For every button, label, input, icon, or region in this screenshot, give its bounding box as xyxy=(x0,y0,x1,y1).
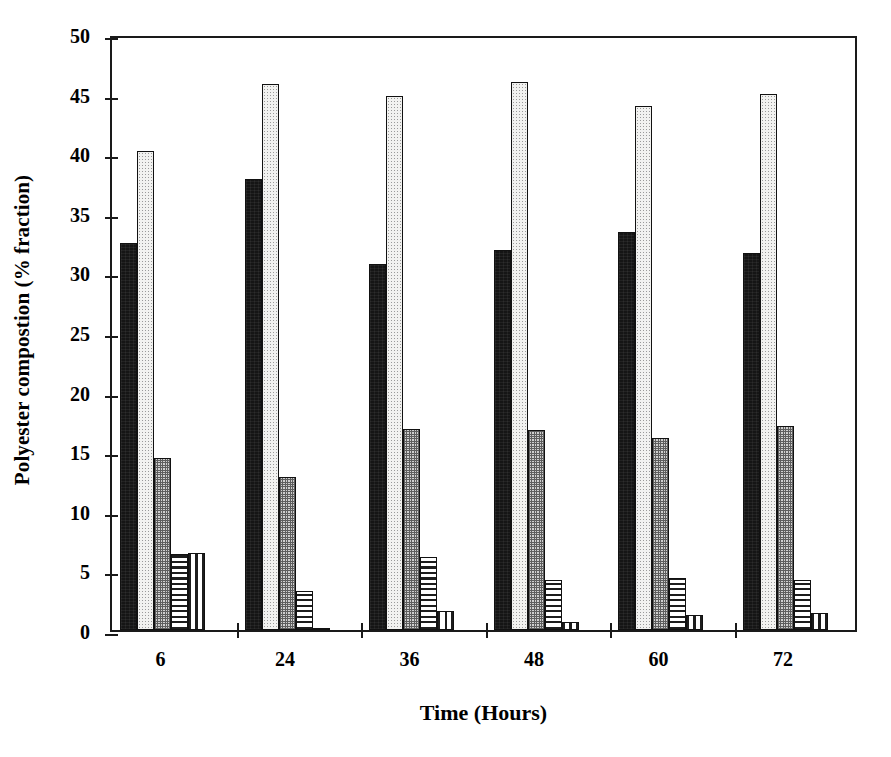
y-axis-title: Polyester compostion (% fraction) xyxy=(10,175,35,485)
bar-series-2-24 xyxy=(262,84,279,630)
y-axis-tick-labels: 05101520253035404550 xyxy=(44,0,100,700)
bar-series-3-36 xyxy=(403,429,420,630)
bar-series-4-24 xyxy=(296,591,313,630)
x-axis-tick-label: 36 xyxy=(400,648,420,671)
x-axis-tick-label: 24 xyxy=(275,648,295,671)
bar-series-1-6 xyxy=(120,243,137,630)
bar-series-1-48 xyxy=(494,250,511,630)
bar-group xyxy=(486,38,611,630)
bar-series-3-60 xyxy=(652,438,669,630)
y-axis-tick-label: 15 xyxy=(70,442,90,465)
x-axis-tick-label: 60 xyxy=(649,648,669,671)
bar-series-1-36 xyxy=(369,264,386,630)
bar-series-2-72 xyxy=(760,94,777,630)
bar-group xyxy=(237,38,362,630)
bar-group xyxy=(735,38,860,630)
bar-series-3-24 xyxy=(279,477,296,630)
bar-series-3-72 xyxy=(777,426,794,630)
bar-series-2-60 xyxy=(635,106,652,630)
bar-series-4-6 xyxy=(171,554,188,630)
bar-group xyxy=(361,38,486,630)
x-axis-tick-label: 72 xyxy=(773,648,793,671)
bar-series-5-24 xyxy=(313,628,330,630)
bar-series-5-36 xyxy=(437,611,454,630)
bar-series-2-6 xyxy=(137,151,154,630)
y-axis-tick-label: 10 xyxy=(70,501,90,524)
bar-series-1-72 xyxy=(743,253,760,630)
bar-series-4-36 xyxy=(420,557,437,630)
bar-series-5-60 xyxy=(686,615,703,630)
bar-series-3-6 xyxy=(154,458,171,630)
plot-area xyxy=(110,36,857,632)
bar-series-4-72 xyxy=(794,580,811,630)
y-axis-tick-label: 40 xyxy=(70,144,90,167)
bar-series-3-48 xyxy=(528,430,545,630)
bar-series-5-6 xyxy=(188,553,205,630)
y-axis-title-container: Polyester compostion (% fraction) xyxy=(0,0,44,660)
bar-series-5-48 xyxy=(562,622,579,630)
bar-series-2-48 xyxy=(511,82,528,630)
y-axis-tick-label: 0 xyxy=(80,621,90,644)
x-axis-tick-label: 6 xyxy=(156,648,166,671)
y-axis-tick-label: 20 xyxy=(70,382,90,405)
bar-series-container xyxy=(112,38,855,630)
y-axis-tick-mark xyxy=(105,634,118,636)
y-axis-tick-label: 30 xyxy=(70,263,90,286)
bar-group xyxy=(112,38,237,630)
y-axis-tick-label: 35 xyxy=(70,203,90,226)
bar-series-4-60 xyxy=(669,578,686,630)
bar-group xyxy=(610,38,735,630)
bar-series-1-60 xyxy=(618,232,635,630)
x-axis-tick-label: 48 xyxy=(524,648,544,671)
bar-series-1-24 xyxy=(245,179,262,630)
bar-series-2-36 xyxy=(386,96,403,630)
y-axis-tick-label: 50 xyxy=(70,25,90,48)
y-axis-tick-label: 5 xyxy=(80,561,90,584)
chart-figure: Polyester compostion (% fraction) 051015… xyxy=(0,0,891,757)
x-axis-tick-labels: 62436486072 xyxy=(110,648,857,684)
bar-series-4-48 xyxy=(545,580,562,630)
x-axis-title: Time (Hours) xyxy=(110,700,857,726)
bar-series-5-72 xyxy=(811,613,828,630)
plot-inner xyxy=(112,38,855,630)
y-axis-tick-label: 45 xyxy=(70,84,90,107)
y-axis-tick-label: 25 xyxy=(70,323,90,346)
